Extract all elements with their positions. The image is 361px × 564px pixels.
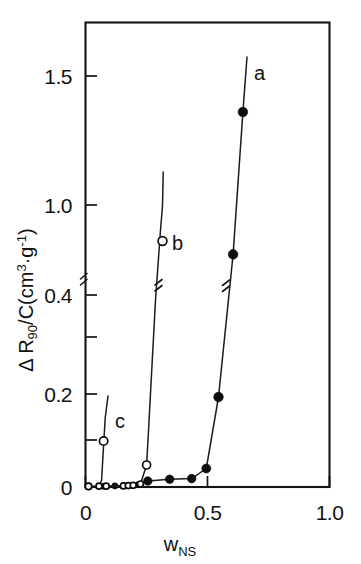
x-axis-title: wNS <box>163 533 197 559</box>
y-axis-title-cm-sup: 3 <box>14 264 29 271</box>
y-tick-label-0.2: 0.2 <box>44 383 72 406</box>
data-point-a <box>238 107 248 117</box>
data-point-a <box>214 392 224 402</box>
y-axis-title-slashc: /C(cm <box>15 272 37 325</box>
series-b <box>86 172 167 489</box>
y-axis-title-close: ) <box>15 228 37 235</box>
x-axis-title-base: w <box>163 533 179 555</box>
data-point-a <box>165 475 174 484</box>
data-point-c <box>85 483 91 489</box>
chart-svg: 1.5 1.0 0.4 0.2 0 0 0.5 1.0 wNS Δ R90/C(… <box>0 0 361 564</box>
data-point-a <box>228 250 238 260</box>
series-a-line <box>104 57 247 486</box>
x-tick-label-0: 0 <box>80 501 91 524</box>
y-tick-label-1.0: 1.0 <box>44 194 72 217</box>
y-tick-label-0: 0 <box>61 476 72 499</box>
figure-container: 1.5 1.0 0.4 0.2 0 0 0.5 1.0 wNS Δ R90/C(… <box>0 0 361 564</box>
svg-text:Δ R90/C(cm3·g-1): Δ R90/C(cm3·g-1) <box>14 228 40 371</box>
data-point-a <box>202 464 211 473</box>
data-point-b <box>143 461 151 469</box>
data-point-b <box>138 481 144 487</box>
data-point-c <box>96 483 102 489</box>
data-point-c <box>99 437 107 445</box>
data-point-b <box>103 483 109 489</box>
curve-label-c: c <box>115 410 125 432</box>
y-tick-label-1.5: 1.5 <box>44 65 72 88</box>
x-tick-label-0.5: 0.5 <box>194 501 222 524</box>
series-a-break-icon <box>223 280 230 292</box>
y-axis-title-g-sup: -1 <box>14 235 29 247</box>
y-axis-title-delta: Δ <box>15 359 37 372</box>
y-axis-title-r-sub: 90 <box>25 325 40 339</box>
y-axis-ticks <box>86 76 98 487</box>
data-point-a <box>187 474 196 483</box>
x-tick-label-1.0: 1.0 <box>316 501 344 524</box>
x-axis-title-sub: NS <box>178 544 196 559</box>
curve-label-b: b <box>172 232 183 254</box>
data-point-a <box>144 477 153 486</box>
y-axis-title: Δ R90/C(cm3·g-1) <box>14 228 40 371</box>
y-tick-label-0.4: 0.4 <box>44 284 73 307</box>
y-axis-title-r: R <box>15 339 37 353</box>
y-axis-title-dotg: ·g <box>15 247 37 265</box>
data-point-b <box>130 482 136 488</box>
data-point-b <box>158 237 167 246</box>
series-c <box>85 396 108 490</box>
svg-text:wNS: wNS <box>163 533 197 559</box>
curve-label-a: a <box>254 62 266 84</box>
